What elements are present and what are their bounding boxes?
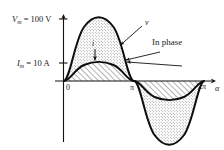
current-curve-label: i <box>92 40 94 48</box>
x-tick-pi: π <box>130 84 134 92</box>
in-phase-leader-lower <box>127 62 182 66</box>
x-axis-label: α <box>215 85 219 93</box>
x-tick-0: 0 <box>66 84 70 92</box>
voltage-amplitude-label: Vm = 100 V <box>12 15 51 24</box>
x-tick-2pi: 2π <box>198 83 206 91</box>
current-amplitude-label: Im = 10 A <box>17 59 50 68</box>
voltage-curve-label: v <box>145 19 149 27</box>
voltage-label-leader <box>121 26 143 45</box>
in-phase-leader-upper <box>126 52 160 60</box>
in-phase-label: In phase <box>152 38 182 47</box>
